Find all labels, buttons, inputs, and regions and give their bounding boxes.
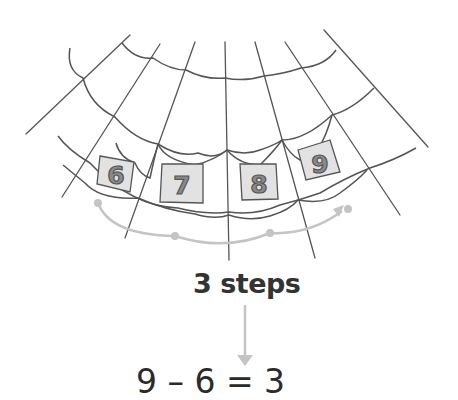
web-spiral-threads <box>58 43 416 219</box>
hop-arrows <box>94 199 352 243</box>
equation: 9 – 6 = 3 <box>136 362 285 400</box>
tile-9: 9 <box>298 140 340 180</box>
number-tiles: 6 7 8 9 <box>97 140 340 203</box>
svg-text:9: 9 <box>311 150 328 179</box>
tile-8: 8 <box>240 164 278 200</box>
tile-6: 6 <box>97 156 134 192</box>
svg-text:7: 7 <box>173 171 190 200</box>
steps-label: 3 steps <box>193 268 300 299</box>
tile-7: 7 <box>160 164 203 203</box>
spider-web-diagram: 6 7 8 9 <box>0 0 458 400</box>
down-arrow <box>237 305 253 366</box>
svg-text:8: 8 <box>250 170 267 199</box>
web-radial-threads <box>26 30 428 260</box>
svg-text:6: 6 <box>107 161 124 190</box>
